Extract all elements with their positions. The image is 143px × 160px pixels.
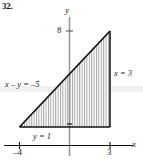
x-tick-label-3: 3 <box>107 147 112 157</box>
figure-container: 32. y x <box>0 0 143 160</box>
line-label-x-equals-3: x = 3 <box>114 68 132 78</box>
y-tick-label-8: 8 <box>57 25 62 35</box>
line-label-y-equals-1: y = 1 <box>33 131 51 141</box>
problem-number: 32. <box>2 1 13 11</box>
line-label-x-minus-y: x – y = –5 <box>5 79 40 89</box>
x-tick-label-minus4: –4 <box>13 147 22 157</box>
y-axis-label: y <box>65 5 69 15</box>
x-axis-label: x <box>132 139 136 149</box>
